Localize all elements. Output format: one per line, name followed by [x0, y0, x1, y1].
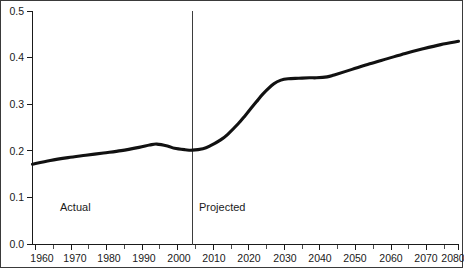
- y-tick-label-1: 0.1: [9, 191, 24, 203]
- y-tick-label-4: 0.4: [9, 51, 24, 63]
- x-tick-label-1970: 1970: [63, 252, 87, 264]
- x-tick-label-2070: 2070: [414, 252, 438, 264]
- y-tick-label-0: 0.0: [9, 238, 24, 250]
- x-tick-label-2030: 2030: [273, 252, 297, 264]
- y-tick-label-3: 0.3: [9, 98, 24, 110]
- y-tick-marks: [27, 11, 32, 245]
- x-tick-label-2010: 2010: [202, 252, 226, 264]
- x-tick-label-2040: 2040: [308, 252, 332, 264]
- y-tick-label-5: 0.5: [9, 5, 24, 17]
- x-tick-label-2020: 2020: [237, 252, 261, 264]
- x-tick-label-2000: 2000: [167, 252, 191, 264]
- x-tick-label-1990: 1990: [132, 252, 156, 264]
- x-tick-label-1980: 1980: [97, 252, 121, 264]
- y-tick-label-2: 0.2: [9, 145, 24, 157]
- x-tick-label-2060: 2060: [379, 252, 403, 264]
- projected-label: Projected: [199, 201, 245, 213]
- line-chart: 0.0 0.1 0.2 0.3 0.4 0.5: [1, 1, 464, 268]
- x-tick-label-2050: 2050: [343, 252, 367, 264]
- x-tick-label-2080: 2080: [441, 252, 464, 264]
- actual-label: Actual: [60, 201, 91, 213]
- plot-area: [32, 11, 459, 245]
- x-tick-label-1960: 1960: [30, 252, 54, 264]
- x-tick-marks: [36, 245, 459, 250]
